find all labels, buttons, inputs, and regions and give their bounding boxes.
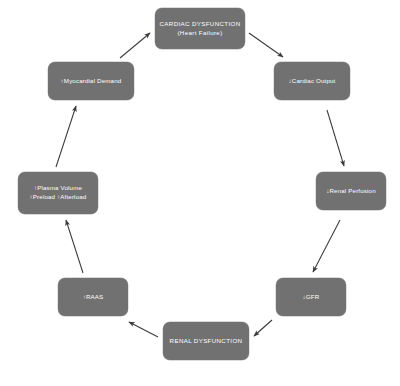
node-label-raas: ↑RAAS [83,293,104,302]
node-label-gfr: ↓GFR [303,293,320,302]
node-label-renal-dysfunction: RENAL DYSFUNCTION [170,337,243,346]
node-plasma-volume[interactable]: ↑Plasma Volume ↑Preload ↑Afterload [18,172,98,214]
node-label-cardiac-dysfunction: CARDIAC DYSFUNCTION (Heart Failure) [160,20,241,38]
node-label-myocardial-demand: ↑Myocardial Demand [61,77,122,86]
node-label-plasma-volume: ↑Plasma Volume ↑Preload ↑Afterload [30,184,87,202]
node-label-renal-perfusion: ↓Renal Perfusion [326,187,376,196]
node-label-cardiac-output: ↓Cardiac Output [289,77,336,86]
cycle-diagram: CARDIAC DYSFUNCTION (Heart Failure) ↓Car… [0,0,400,386]
arrow-raas-to-plasma-volume [66,220,83,273]
node-cardiac-output[interactable]: ↓Cardiac Output [274,62,350,100]
arrow-cardiac-dysfunction-to-cardiac-output [249,33,283,57]
arrow-renal-perfusion-to-gfr [313,220,340,272]
arrow-renal-dysfunction-to-raas [129,322,158,337]
arrow-cardiac-output-to-renal-perfusion [327,110,344,166]
node-gfr[interactable]: ↓GFR [276,278,346,316]
node-myocardial-demand[interactable]: ↑Myocardial Demand [48,62,134,100]
node-raas[interactable]: ↑RAAS [58,278,128,316]
node-renal-dysfunction[interactable]: RENAL DYSFUNCTION [163,322,249,360]
node-renal-perfusion[interactable]: ↓Renal Perfusion [316,172,386,210]
arrow-gfr-to-renal-dysfunction [254,320,272,336]
arrow-myocardial-demand-to-cardiac-dysfunction [120,33,150,58]
node-cardiac-dysfunction[interactable]: CARDIAC DYSFUNCTION (Heart Failure) [155,8,245,49]
arrow-plasma-volume-to-myocardial-demand [56,106,76,167]
